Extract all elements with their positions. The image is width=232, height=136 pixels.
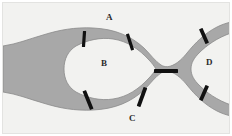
figure-frame: A B C D [2,2,230,134]
figure-root: A B C D [0,0,232,136]
bar-center-bridge [154,69,178,73]
region-label-b: B [101,59,107,68]
channel-network-diagram [3,3,230,134]
region-label-d: D [206,58,213,67]
region-label-a: A [106,13,113,22]
region-label-c: C [129,114,136,123]
